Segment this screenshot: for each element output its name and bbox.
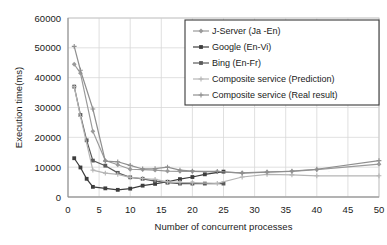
data-point xyxy=(141,184,145,188)
legend-label: Bing (En-Fr) xyxy=(212,58,261,68)
y-tick-label: 40000 xyxy=(35,72,61,83)
x-tick-label: 45 xyxy=(343,204,354,215)
data-point xyxy=(314,173,319,178)
x-tick-label: 40 xyxy=(312,204,323,215)
data-point xyxy=(290,169,295,174)
line-chart: 0100002000030000400005000060000051015202… xyxy=(0,0,387,245)
data-point xyxy=(115,159,120,164)
data-point xyxy=(90,129,95,134)
data-point xyxy=(165,165,170,170)
x-tick-label: 15 xyxy=(156,204,167,215)
x-tick-label: 0 xyxy=(65,204,70,215)
data-point xyxy=(116,188,120,192)
x-tick-label: 20 xyxy=(187,204,198,215)
data-point xyxy=(72,156,76,160)
x-tick-label: 25 xyxy=(218,204,229,215)
data-point xyxy=(191,175,195,179)
legend-label: Composite service (Real result) xyxy=(212,90,338,100)
data-point xyxy=(128,187,132,191)
chart-container: 0100002000030000400005000060000051015202… xyxy=(0,0,387,245)
data-point xyxy=(215,181,220,186)
data-point xyxy=(91,185,95,189)
data-point xyxy=(103,186,107,190)
data-point xyxy=(377,158,382,163)
legend-item-3[interactable]: Composite service (Prediction) xyxy=(193,74,335,84)
legend-item-4[interactable]: Composite service (Real result) xyxy=(193,90,338,100)
x-tick-label: 5 xyxy=(96,204,101,215)
series-line xyxy=(74,158,223,190)
data-point xyxy=(199,61,203,65)
y-tick-label: 10000 xyxy=(35,162,61,173)
x-tick-label: 30 xyxy=(249,204,260,215)
data-point xyxy=(190,169,195,174)
y-tick-label: 60000 xyxy=(35,13,61,24)
y-tick-label: 30000 xyxy=(35,102,61,113)
y-tick-label: 50000 xyxy=(35,42,61,53)
data-point xyxy=(203,172,207,176)
y-tick-label: 20000 xyxy=(35,132,61,143)
data-point xyxy=(377,173,382,178)
data-point xyxy=(90,168,95,173)
y-axis-title: Execution time(ms) xyxy=(13,67,24,148)
data-point xyxy=(103,164,107,168)
data-point xyxy=(240,171,245,176)
x-axis-title: Number of concurrent processes xyxy=(155,221,293,232)
x-tick-label: 10 xyxy=(125,204,136,215)
y-tick-label: 0 xyxy=(56,192,61,203)
data-point xyxy=(78,68,83,73)
legend-label: J-Server (Ja -En) xyxy=(212,26,281,36)
data-point xyxy=(103,159,108,164)
data-point xyxy=(103,171,108,176)
data-point xyxy=(79,166,83,170)
legend-label: Composite service (Prediction) xyxy=(212,74,335,84)
legend-label: Google (En-Vi) xyxy=(212,42,271,52)
data-point xyxy=(199,45,203,49)
data-point xyxy=(314,167,319,172)
x-tick-label: 35 xyxy=(280,204,291,215)
x-tick-label: 50 xyxy=(374,204,385,215)
data-point xyxy=(85,177,89,181)
